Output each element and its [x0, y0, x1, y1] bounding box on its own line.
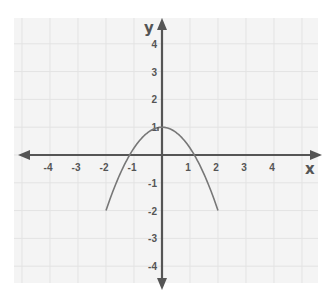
x-tick-label: 1 — [185, 162, 191, 173]
y-tick-label: 3 — [151, 67, 157, 78]
x-tick-label: -3 — [72, 162, 81, 173]
x-axis-label: x — [305, 160, 315, 178]
y-axis-bottom-arrow-icon — [157, 278, 167, 290]
y-tick-label: 4 — [151, 39, 157, 50]
y-axis-label: y — [144, 19, 154, 37]
y-tick-label: -4 — [148, 261, 157, 272]
x-tick-label: -2 — [100, 162, 109, 173]
x-tick-label: -1 — [128, 162, 137, 173]
y-tick-label: -2 — [148, 206, 157, 217]
x-tick-label: 3 — [241, 162, 247, 173]
plot-background — [14, 18, 318, 283]
x-tick-label: 4 — [269, 162, 275, 173]
y-tick-label: -1 — [148, 178, 157, 189]
parabola-chart: -4-3-2-112344321-1-2-3-4 x y — [0, 0, 332, 293]
x-tick-label: -4 — [44, 162, 53, 173]
y-tick-label: 2 — [151, 94, 157, 105]
x-tick-label: 2 — [213, 162, 219, 173]
y-tick-label: -3 — [148, 233, 157, 244]
